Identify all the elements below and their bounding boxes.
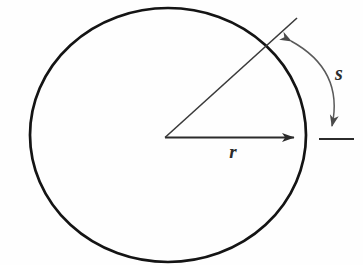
arc-length-label: s (334, 62, 343, 84)
circle-arc-diagram-svg: circle-arc-radius-diagram Circle with a … (0, 0, 363, 265)
figure-canvas: circle-arc-radius-diagram Circle with a … (0, 0, 363, 265)
radius-slanted-line (165, 18, 297, 138)
radius-label: r (229, 141, 237, 162)
arc-length-marker (291, 41, 334, 126)
